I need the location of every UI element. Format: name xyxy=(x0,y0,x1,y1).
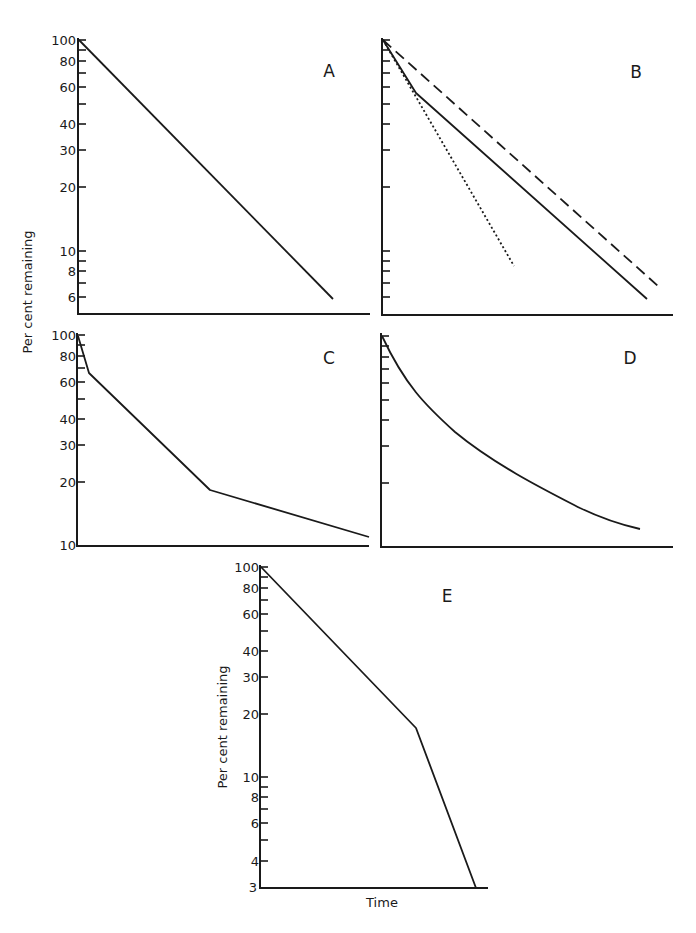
panel-b-series-solid xyxy=(383,40,647,299)
panel-b-ticks xyxy=(382,40,390,297)
panel-a-tick-labels: 100 80 60 40 30 20 10 8 6 xyxy=(51,33,76,305)
svg-text:10: 10 xyxy=(59,244,76,259)
panel-c: 100 80 60 40 30 20 10 C xyxy=(51,328,369,553)
svg-text:40: 40 xyxy=(59,117,76,132)
svg-text:8: 8 xyxy=(68,264,76,279)
svg-text:6: 6 xyxy=(251,816,259,831)
svg-text:6: 6 xyxy=(68,290,76,305)
svg-text:4: 4 xyxy=(251,854,259,869)
svg-text:60: 60 xyxy=(242,607,259,622)
svg-text:20: 20 xyxy=(242,707,259,722)
panel-c-tick-labels: 100 80 60 40 30 20 10 xyxy=(51,328,76,553)
panel-d-ticks xyxy=(381,336,389,483)
panel-e-letter: E xyxy=(442,586,453,606)
svg-text:30: 30 xyxy=(59,438,76,453)
panel-d-series xyxy=(382,336,640,529)
svg-text:80: 80 xyxy=(242,581,259,596)
svg-text:100: 100 xyxy=(51,33,76,48)
svg-text:60: 60 xyxy=(59,80,76,95)
svg-text:80: 80 xyxy=(59,349,76,364)
panel-e-tick-labels: 100 80 60 40 30 20 10 8 6 4 3 xyxy=(234,560,259,895)
svg-text:3: 3 xyxy=(249,880,257,895)
y-axis-title-bottom: Per cent remaining xyxy=(215,665,230,788)
svg-text:20: 20 xyxy=(59,475,76,490)
svg-text:40: 40 xyxy=(242,644,259,659)
svg-text:60: 60 xyxy=(59,375,76,390)
x-axis-title: Time xyxy=(365,895,398,910)
svg-text:8: 8 xyxy=(251,790,259,805)
panel-b-series-dashed xyxy=(383,40,658,286)
panel-e: Per cent remaining 100 80 60 40 3 xyxy=(215,560,488,910)
svg-text:100: 100 xyxy=(51,328,76,343)
panel-b-series-dotted xyxy=(383,40,514,266)
svg-text:30: 30 xyxy=(242,670,259,685)
svg-text:20: 20 xyxy=(59,180,76,195)
y-axis-title-top: Per cent remaining xyxy=(20,230,35,353)
panel-b-letter: B xyxy=(630,62,642,82)
svg-text:40: 40 xyxy=(59,412,76,427)
panel-c-letter: C xyxy=(323,348,335,368)
svg-text:10: 10 xyxy=(242,770,259,785)
panel-d: D xyxy=(380,333,673,548)
svg-text:100: 100 xyxy=(234,560,259,575)
panel-a-ticks xyxy=(78,40,86,297)
figure-canvas: Per cent remaining 100 80 60 40 30 xyxy=(0,0,696,933)
panel-d-letter: D xyxy=(623,348,636,368)
panel-b: B xyxy=(381,38,673,316)
panel-a-letter: A xyxy=(323,61,335,81)
panel-a-series xyxy=(79,40,333,299)
panel-e-ticks xyxy=(260,567,268,861)
panel-a: 100 80 60 40 30 20 10 8 6 A xyxy=(51,33,370,315)
svg-text:80: 80 xyxy=(59,54,76,69)
panel-e-series xyxy=(261,567,476,888)
svg-text:30: 30 xyxy=(59,143,76,158)
svg-text:10: 10 xyxy=(59,538,76,553)
